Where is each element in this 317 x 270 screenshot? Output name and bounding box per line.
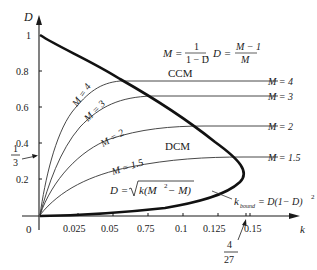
curve-m3 — [40, 96, 278, 215]
svg-text:M =: M = — [162, 47, 182, 59]
y-tick-0.8: 0.8 — [16, 66, 29, 77]
x-tick-0.125: 0.125 — [203, 223, 226, 234]
x-tick-0.025: 0.025 — [63, 223, 86, 234]
origin-label: 0 — [26, 223, 32, 235]
svg-text:4: 4 — [227, 239, 232, 250]
label-m2-right: M = 2 — [267, 121, 293, 132]
label-m3-curve: M = 3 — [81, 98, 107, 124]
label-m4-right: M = 4 — [267, 76, 293, 87]
svg-text:− M): − M) — [168, 184, 191, 197]
y-tick-1: 1 — [26, 30, 31, 41]
ccm-dcm-boundary-chart: D k 0 1 0.8 0.6 0.4 0.2 0.025 0.05 0.75 … — [0, 0, 317, 270]
svg-text:D =: D = — [212, 47, 231, 59]
svg-text:M: M — [240, 54, 250, 65]
x-tick-0.1: 0.1 — [175, 223, 188, 234]
x-tick-0.15: 0.15 — [244, 223, 262, 234]
x-axis-arrow-icon — [289, 213, 300, 219]
ccm-label: CCM — [168, 67, 193, 79]
svg-text:bound: bound — [240, 203, 256, 209]
y-tick-0.6: 0.6 — [16, 102, 29, 113]
label-m3-right: M = 3 — [267, 91, 293, 102]
svg-text:= D(1− D): = D(1− D) — [258, 196, 303, 208]
dcm-label: DCM — [165, 140, 190, 152]
relation-formula: M = 1 1 − D , D = M − 1 M — [162, 41, 261, 65]
y-tick-0.2: 0.2 — [16, 174, 29, 185]
label-m15-right: M = 1.5 — [267, 152, 301, 163]
svg-text:2: 2 — [311, 193, 315, 201]
four-27ths-marker: 4 27 — [224, 219, 247, 265]
label-m4-curve: M = 4 — [69, 81, 93, 109]
arrow-icon — [32, 154, 38, 159]
svg-text:,: , — [206, 47, 209, 59]
svg-text:27: 27 — [224, 254, 234, 265]
arrow-icon — [242, 219, 247, 226]
svg-text:1: 1 — [13, 143, 18, 154]
x-tick-0.75: 0.75 — [137, 223, 155, 234]
svg-text:1: 1 — [194, 41, 199, 52]
label-m15-curve: M = 1.5 — [109, 156, 144, 177]
y-axis-arrow-icon — [36, 15, 42, 25]
x-axis-label: k — [300, 223, 306, 235]
svg-text:M − 1: M − 1 — [235, 41, 261, 52]
x-tick-0.05: 0.05 — [101, 223, 119, 234]
y-axis-label: D — [23, 10, 33, 24]
dcm-formula: D = k(M 2 − M) — [109, 181, 194, 197]
svg-text:3: 3 — [13, 157, 18, 168]
label-m2-curve: M = 2 — [98, 127, 126, 150]
svg-text:D =: D = — [109, 184, 128, 196]
kbound-formula: k bound = D(1− D) 2 — [234, 193, 315, 209]
svg-text:k(M: k(M — [139, 184, 158, 197]
